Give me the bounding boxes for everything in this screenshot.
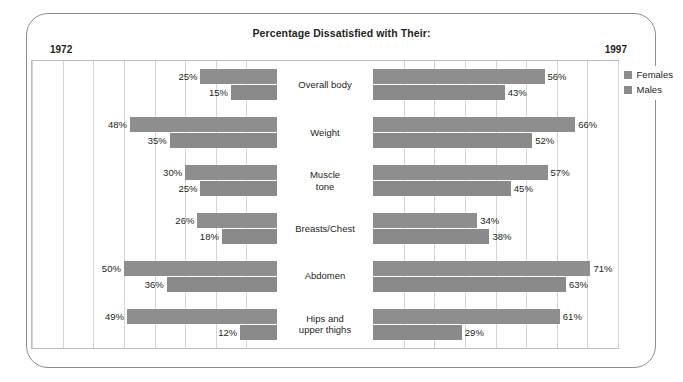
category-label: Overall body [277,61,373,109]
bar-female-left [185,165,277,180]
legend-swatch-males-icon [624,86,632,94]
bar-male-right [373,277,566,292]
bar-value-label: 12% [218,325,237,340]
bar-value-label: 61% [563,309,582,324]
bar-female-left [130,117,277,132]
gridline [618,61,619,348]
bar-female-right [373,69,545,84]
year-label-left: 1972 [50,44,72,55]
legend-item-females: Females [624,68,673,81]
bar-value-label: 30% [163,165,182,180]
bar-female-right [373,165,548,180]
page-title: Percentage Dissatisfied with Their: [0,27,683,39]
bar-female-right [373,117,575,132]
bar-value-label: 34% [480,213,499,228]
year-label-right: 1997 [605,44,627,55]
bar-value-label: 56% [548,69,567,84]
bar-value-label: 26% [175,213,194,228]
bar-value-label: 63% [569,277,588,292]
bar-male-right [373,229,489,244]
chart-row: 26%18%34%38%Breasts/Chest [32,205,618,253]
bar-male-left [170,133,277,148]
plot-inner: 25%15%56%43%Overall body48%35%66%52%Weig… [32,61,618,348]
bar-male-right [373,325,462,340]
bar-value-label: 18% [200,229,219,244]
bar-value-label: 25% [178,181,197,196]
bar-male-right [373,181,511,196]
bar-value-label: 45% [514,181,533,196]
bar-value-label: 57% [551,165,570,180]
bar-male-right [373,85,505,100]
chart-page: Percentage Dissatisfied with Their: 1972… [0,0,683,382]
bar-value-label: 35% [148,133,167,148]
category-label: Muscletone [277,157,373,205]
bar-female-right [373,261,590,276]
bar-value-label: 71% [593,261,612,276]
bar-female-left [124,261,277,276]
bar-female-left [200,69,277,84]
bar-value-label: 49% [105,309,124,324]
bar-female-right [373,213,477,228]
bar-female-right [373,309,560,324]
bar-value-label: 50% [102,261,121,276]
bar-value-label: 29% [465,325,484,340]
plot-area: 25%15%56%43%Overall body48%35%66%52%Weig… [31,60,619,349]
legend-item-males: Males [624,83,673,96]
bar-value-label: 43% [508,85,527,100]
chart-row: 25%15%56%43%Overall body [32,61,618,109]
bar-rows: 25%15%56%43%Overall body48%35%66%52%Weig… [32,61,618,348]
bar-male-left [240,325,277,340]
legend-swatch-females-icon [624,71,632,79]
bar-male-left [231,85,277,100]
bar-value-label: 38% [492,229,511,244]
legend: Females Males [621,66,675,100]
bar-value-label: 15% [209,85,228,100]
category-label: Abdomen [277,252,373,300]
bar-value-label: 36% [145,277,164,292]
bar-male-left [222,229,277,244]
chart-row: 49%12%61%29%Hips andupper thighs [32,300,618,348]
bar-male-left [200,181,277,196]
chart-row: 48%35%66%52%Weight [32,109,618,157]
category-label: Weight [277,109,373,157]
legend-label-females: Females [637,69,673,80]
bar-value-label: 48% [108,117,127,132]
bar-female-left [197,213,277,228]
category-label: Hips andupper thighs [277,300,373,348]
legend-label-males: Males [637,84,662,95]
bar-value-label: 52% [535,133,554,148]
bar-male-left [167,277,277,292]
chart-row: 30%25%57%45%Muscletone [32,157,618,205]
bar-value-label: 66% [578,117,597,132]
bar-male-right [373,133,532,148]
bar-value-label: 25% [178,69,197,84]
chart-row: 50%36%71%63%Abdomen [32,252,618,300]
category-label: Breasts/Chest [277,205,373,253]
bar-female-left [127,309,277,324]
